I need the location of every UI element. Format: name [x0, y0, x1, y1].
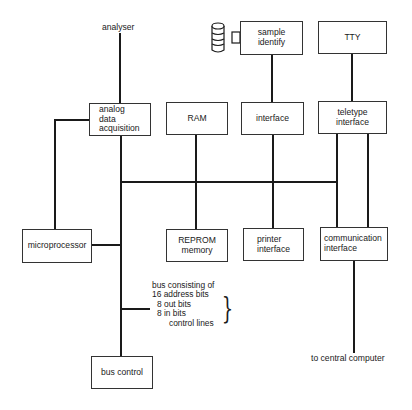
- tty-block: TTY: [318, 21, 387, 54]
- interface-block: interface: [241, 102, 304, 135]
- block-label: interface: [257, 245, 290, 255]
- block-label: microprocessor: [28, 241, 87, 251]
- reprom-memory-block: REPROM memory: [166, 229, 228, 262]
- sample-identify-block: sample identify: [240, 21, 303, 55]
- block-label: interface: [336, 118, 369, 128]
- communication-interface-block: communication interface: [320, 227, 388, 261]
- block-label: identify: [258, 38, 285, 48]
- analog-data-acquisition-block: analog data acquisition: [89, 103, 151, 136]
- block-label: RAM: [187, 114, 206, 124]
- central-computer-label: to central computer: [311, 354, 385, 364]
- block-label: memory: [181, 246, 212, 256]
- teletype-interface-block: teletype interface: [318, 101, 387, 134]
- bus-note-line: control lines: [152, 319, 214, 328]
- bus-control-block: bus control: [91, 356, 153, 389]
- system-block-diagram: analyser to central computer analog data…: [0, 0, 412, 410]
- microprocessor-block: microprocessor: [22, 229, 92, 263]
- analyser-label: analyser: [102, 23, 134, 33]
- ram-block: RAM: [166, 102, 228, 135]
- bus-description: bus consisting of 16 address bits 8 out …: [152, 281, 214, 328]
- block-label: acquisition: [99, 124, 140, 134]
- block-label: interface: [324, 244, 357, 254]
- block-label: interface: [256, 114, 289, 124]
- connection-wires: [0, 0, 412, 410]
- cylinder-sample-icon: [212, 23, 240, 52]
- block-label: bus control: [101, 368, 143, 378]
- printer-interface-block: printer interface: [243, 228, 304, 261]
- block-label: TTY: [344, 33, 360, 43]
- brace-icon: }: [222, 293, 233, 323]
